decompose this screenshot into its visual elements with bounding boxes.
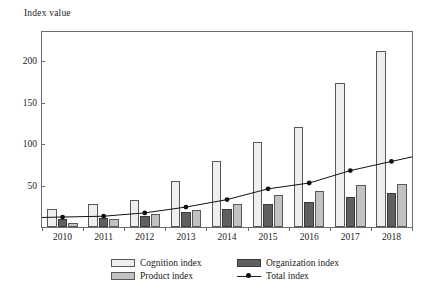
x-tick-label: 2018 <box>382 232 401 242</box>
total-index-line-layer <box>42 32 412 227</box>
total-index-marker <box>348 168 353 173</box>
x-tick-label: 2010 <box>53 232 72 242</box>
x-tick-mark <box>42 227 43 231</box>
legend-item[interactable]: Product index <box>111 271 237 281</box>
chart-container: Index value 50100150200 Cognition indexO… <box>0 0 442 302</box>
product-swatch <box>111 272 135 280</box>
y-tick-mark <box>41 103 45 104</box>
x-tick-label: 2016 <box>300 232 319 242</box>
x-tick-label: 2011 <box>94 232 113 242</box>
total-index-marker <box>389 159 394 164</box>
x-tick-mark <box>165 227 166 231</box>
x-tick-label: 2014 <box>218 232 237 242</box>
total-index-line <box>63 161 392 217</box>
total-index-line-right-extension <box>391 157 412 162</box>
y-tick-label: 100 <box>23 139 37 149</box>
y-tick-label: 50 <box>28 181 38 191</box>
legend-label: Cognition index <box>140 258 202 268</box>
legend-item[interactable]: Organization index <box>237 258 351 268</box>
x-tick-label: 2012 <box>135 232 154 242</box>
total-index-marker <box>101 214 106 219</box>
total-line-marker <box>237 272 261 280</box>
x-tick-mark <box>124 227 125 231</box>
total-index-marker <box>183 205 188 210</box>
y-tick-mark <box>41 61 45 62</box>
y-tick-mark <box>41 144 45 145</box>
legend-label: Organization index <box>266 258 339 268</box>
x-tick-label: 2015 <box>259 232 278 242</box>
x-tick-mark <box>412 227 413 231</box>
x-tick-mark <box>83 227 84 231</box>
y-tick-mark <box>41 186 45 187</box>
x-tick-mark <box>330 227 331 231</box>
y-tick-label: 200 <box>23 56 37 66</box>
x-tick-mark <box>206 227 207 231</box>
x-tick-label: 2017 <box>341 232 360 242</box>
legend-item[interactable]: Total index <box>237 271 351 281</box>
chart-legend: Cognition indexOrganization indexProduct… <box>111 258 351 281</box>
total-index-marker <box>225 197 230 202</box>
y-axis-tick-labels: 50100150200 <box>0 0 37 302</box>
y-tick-label: 150 <box>23 98 37 108</box>
legend-label: Product index <box>140 271 193 281</box>
legend-item[interactable]: Cognition index <box>111 258 237 268</box>
total-index-marker <box>142 210 147 215</box>
x-tick-label: 2013 <box>176 232 195 242</box>
organization-swatch <box>237 259 261 267</box>
legend-label: Total index <box>266 271 309 281</box>
x-tick-mark <box>289 227 290 231</box>
total-index-marker <box>266 186 271 191</box>
x-tick-mark <box>248 227 249 231</box>
total-index-marker <box>307 181 312 186</box>
total-index-marker <box>60 215 65 220</box>
x-tick-mark <box>371 227 372 231</box>
cognition-swatch <box>111 259 135 267</box>
